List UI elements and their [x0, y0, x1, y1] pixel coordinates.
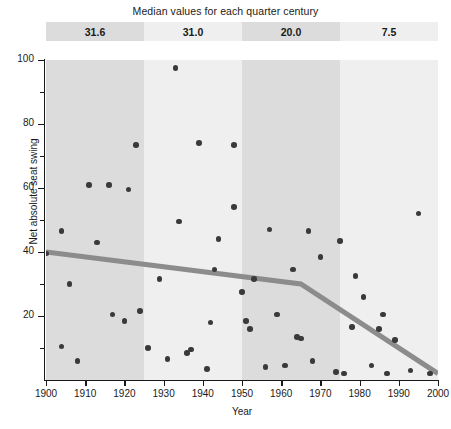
- median-banner: 31.631.020.07.5: [46, 22, 438, 41]
- data-point: [290, 267, 296, 273]
- data-point: [310, 358, 316, 364]
- x-tick-label: 2000: [418, 388, 451, 399]
- y-tick-minor: [40, 220, 44, 221]
- data-point: [337, 238, 343, 244]
- plot-area: [46, 60, 438, 380]
- x-axis-title: Year: [46, 406, 438, 417]
- y-tick: [38, 188, 44, 189]
- x-tick: [46, 381, 47, 386]
- y-tick-minor: [40, 92, 44, 93]
- x-tick-label: 1920: [104, 388, 144, 399]
- y-axis-line: [44, 59, 45, 381]
- y-tick: [38, 252, 44, 253]
- y-tick-label: 100: [4, 53, 34, 64]
- x-tick: [360, 381, 361, 386]
- data-point: [349, 324, 355, 330]
- data-point: [392, 337, 398, 343]
- x-tick-label: 1970: [300, 388, 340, 399]
- data-point: [341, 371, 347, 377]
- x-tick-label: 1930: [144, 388, 184, 399]
- x-tick: [203, 381, 204, 386]
- x-tick-label: 1980: [340, 388, 380, 399]
- data-point: [251, 276, 257, 282]
- quarter-band-2: [144, 60, 242, 380]
- data-point: [239, 289, 245, 295]
- data-point: [204, 366, 210, 372]
- data-point: [137, 308, 143, 314]
- y-tick: [38, 316, 44, 317]
- quarter-band-4: [340, 60, 438, 380]
- x-tick: [85, 381, 86, 386]
- quarter-band-1: [46, 60, 144, 380]
- median-cell-1: 31.6: [46, 22, 144, 41]
- data-point: [94, 240, 100, 246]
- x-tick-label: 1990: [379, 388, 419, 399]
- chart-root: Median values for each quarter century 3…: [0, 0, 451, 429]
- data-point: [231, 204, 237, 210]
- data-point: [376, 326, 382, 332]
- median-cell-2: 31.0: [144, 22, 242, 41]
- x-tick-label: 1950: [222, 388, 262, 399]
- chart-title: Median values for each quarter century: [0, 5, 451, 17]
- y-tick-label: 60: [4, 181, 34, 192]
- data-point: [231, 142, 237, 148]
- data-point: [380, 312, 386, 318]
- data-point: [298, 336, 304, 342]
- x-tick: [281, 381, 282, 386]
- x-tick: [124, 381, 125, 386]
- x-tick: [164, 381, 165, 386]
- y-tick-minor: [40, 284, 44, 285]
- y-tick: [38, 60, 44, 61]
- data-point: [318, 254, 324, 260]
- y-tick-minor: [40, 156, 44, 157]
- data-point: [75, 358, 81, 364]
- median-cell-4: 7.5: [340, 22, 438, 41]
- x-tick-label: 1910: [65, 388, 105, 399]
- x-tick-label: 1940: [183, 388, 223, 399]
- data-point: [247, 326, 253, 332]
- x-tick: [399, 381, 400, 386]
- data-point: [145, 345, 151, 351]
- median-cell-3: 20.0: [242, 22, 340, 41]
- data-point: [361, 294, 367, 300]
- y-tick-minor: [40, 348, 44, 349]
- data-point: [196, 140, 202, 146]
- x-tick: [438, 381, 439, 386]
- x-tick-label: 1900: [26, 388, 66, 399]
- data-point: [122, 318, 128, 324]
- data-point: [243, 318, 249, 324]
- data-point: [106, 182, 112, 188]
- data-point: [173, 65, 179, 71]
- y-tick-label: 20: [4, 309, 34, 320]
- data-point: [67, 281, 73, 287]
- y-tick: [38, 124, 44, 125]
- x-tick: [320, 381, 321, 386]
- data-point: [333, 369, 339, 375]
- y-tick-label: 40: [4, 245, 34, 256]
- y-tick-label: 80: [4, 117, 34, 128]
- data-point: [133, 142, 139, 148]
- data-point: [86, 182, 92, 188]
- x-tick-label: 1960: [261, 388, 301, 399]
- x-tick: [242, 381, 243, 386]
- quarter-band-3: [242, 60, 340, 380]
